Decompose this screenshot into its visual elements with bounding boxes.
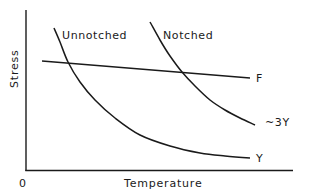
stress-temperature-chart: Unnotched Notched F ~3Y Y 0 Temperature … — [0, 0, 309, 195]
x-axis-label: Temperature — [123, 177, 202, 190]
three-y-label: ~3Y — [265, 116, 290, 129]
origin-label: 0 — [19, 177, 27, 190]
unnotched-yield-curve — [54, 28, 250, 158]
f-label: F — [256, 72, 263, 85]
y-axis-label: Stress — [8, 49, 21, 88]
unnotched-label: Unnotched — [62, 29, 127, 42]
notched-label: Notched — [163, 29, 213, 42]
y-label: Y — [255, 152, 263, 165]
fracture-stress-line — [42, 61, 250, 78]
